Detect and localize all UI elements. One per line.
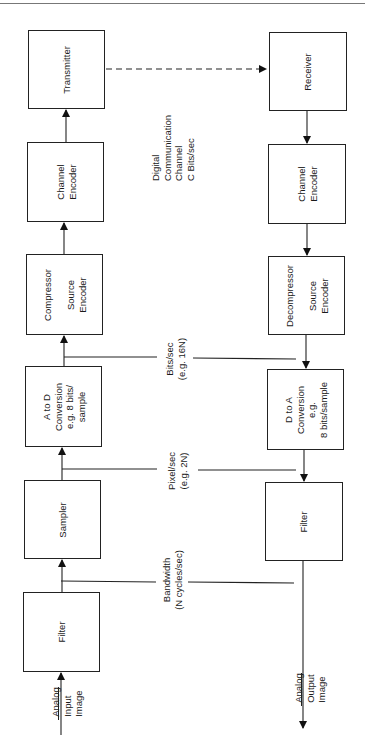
a-to-d-box: A to D Conversion e.g. 8 bits/ sample bbox=[25, 366, 102, 447]
bandwidth-tap-right bbox=[188, 582, 294, 583]
filter-input-box: Filter bbox=[23, 592, 100, 672]
bandwidth-tap-left bbox=[61, 581, 156, 582]
receiver-label: Receiver bbox=[302, 53, 314, 91]
channel-encoder-tx-label: Channel Encoder bbox=[54, 164, 77, 199]
channel-encoder-rx-box: Channel Encoder bbox=[268, 144, 346, 224]
sampler-label: Sampler bbox=[57, 502, 69, 537]
input-annotation: Analog Input Image bbox=[50, 687, 85, 717]
filter-output-label: Filter bbox=[298, 511, 310, 532]
sampler-box: Sampler bbox=[24, 480, 101, 559]
bits-tap-right bbox=[193, 358, 296, 359]
channel-encoder-rx-label: Channel Encoder bbox=[296, 166, 319, 201]
output-analog-underline bbox=[301, 673, 302, 706]
compressor-label: Compressor Source Encoder bbox=[42, 269, 88, 321]
channel-annotation: Digital Communication Channel C Bits/sec bbox=[150, 115, 196, 181]
d-to-a-box: D to A Conversion e.g. 8 bits/sample bbox=[267, 369, 344, 450]
bits-annotation: Bits/sec (e.g. 16N) bbox=[164, 338, 187, 380]
decompressor-label: Decompressor Source Encoder bbox=[284, 265, 330, 327]
channel-encoder-tx-box: Channel Encoder bbox=[27, 142, 104, 222]
d-to-a-label: D to A Conversion e.g. 8 bits/sample bbox=[283, 382, 329, 438]
pixel-annotation: Pixel/sec (e.g. 2N) bbox=[166, 452, 189, 490]
output-annotation: Analog Output Image bbox=[293, 673, 328, 703]
compressor-box: Compressor Source Encoder bbox=[26, 254, 103, 335]
input-analog-underline bbox=[58, 687, 59, 720]
filter-output-box: Filter bbox=[265, 482, 343, 561]
transmitter-label: Transmitter bbox=[61, 46, 73, 94]
decompressor-box: Decompressor Source Encoder bbox=[268, 256, 345, 335]
filter-input-label: Filter bbox=[56, 621, 68, 642]
bandwidth-annotation: Bandwidth (N cycles/sec) bbox=[161, 550, 184, 610]
receiver-box: Receiver bbox=[269, 32, 347, 111]
transmitter-box: Transmitter bbox=[28, 30, 105, 109]
a-to-d-label: A to D Conversion e.g. 8 bits/ sample bbox=[41, 382, 87, 430]
